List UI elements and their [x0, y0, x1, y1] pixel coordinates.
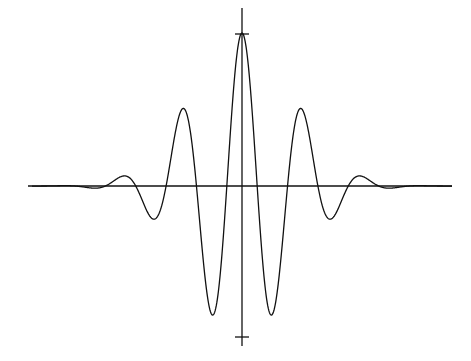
wavelet-plot — [0, 0, 471, 361]
